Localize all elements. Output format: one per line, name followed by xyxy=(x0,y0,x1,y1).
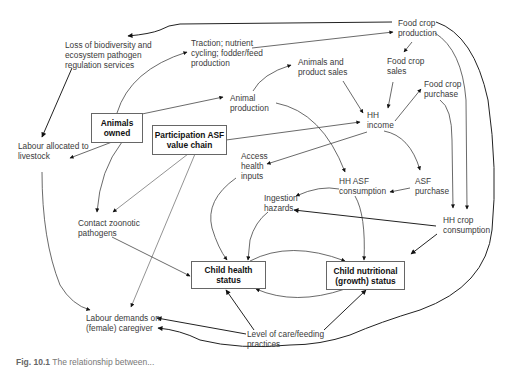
box-child-health-status: Child health status xyxy=(191,261,266,289)
node-loss-biodiversity: Loss of biodiversity and ecosystem patho… xyxy=(65,40,152,70)
figure-label: Fig. 10.1 xyxy=(16,357,50,367)
node-access-health: Access health inputs xyxy=(241,151,268,181)
node-food-crop-sales: Food crop sales xyxy=(387,56,424,76)
node-contact-zoonotic: Contact zoonotic pathogens xyxy=(78,218,140,238)
box-animals-owned: Animals owned xyxy=(91,113,143,143)
figure-caption: Fig. 10.1 The relationship between... xyxy=(16,357,154,367)
node-animal-production: Animal production xyxy=(230,93,269,113)
node-ingestion-hazards: Ingestion hazards xyxy=(264,193,298,213)
box-participation-asf: Participation ASF value chain xyxy=(152,125,227,155)
box-child-nutritional-status: Child nutritional (growth) status xyxy=(326,261,405,290)
node-hh-crop-consumption: HH crop consumption xyxy=(443,215,490,235)
node-asf-purchase: ASF purchase xyxy=(415,176,449,196)
node-hh-asf-consumption: HH ASF consumption xyxy=(339,176,386,196)
figure-caption-text: The relationship between... xyxy=(52,357,154,367)
node-food-crop-purchase: Food crop purchase xyxy=(424,79,461,99)
node-animals-product-sales: Animals and product sales xyxy=(298,57,347,77)
causal-diagram: Loss of biodiversity and ecosystem patho… xyxy=(0,0,508,368)
node-level-care: Level of care/feeding practices xyxy=(247,329,324,349)
node-labour-caregiver: Labour demands on (female) caregiver xyxy=(86,313,160,333)
node-traction: Traction; nutrient cycling; fodder/feed … xyxy=(191,38,263,68)
node-hh-income: HH income xyxy=(367,110,394,130)
node-labour-livestock: Labour allocated to livestock xyxy=(18,141,89,161)
node-food-crop-production: Food crop production xyxy=(398,18,437,38)
